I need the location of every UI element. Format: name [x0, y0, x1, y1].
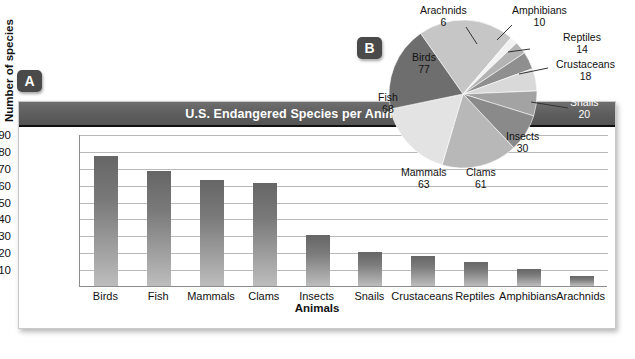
pie-label-insects-value: 30 [506, 143, 539, 155]
bar [464, 262, 488, 286]
pie-label-mammals-name: Mammals [401, 167, 447, 179]
bar [306, 235, 330, 286]
pie-label-mammals: Mammals 63 [401, 167, 447, 190]
y-axis-tick: 90 [0, 130, 11, 140]
pie-callout-snails: Snails 20 [570, 96, 599, 120]
pie-callout-crustaceans-name: Crustaceans [556, 58, 615, 70]
x-axis-tick: Arachnids [541, 290, 621, 302]
pie-label-birds-value: 77 [412, 64, 436, 76]
y-axis-tick: 60 [0, 181, 11, 191]
pie-callout-amphibians-name: Amphibians [512, 4, 567, 16]
y-axis-tick: 40 [0, 214, 11, 224]
bar [147, 171, 171, 286]
pie-callout-amphibians: Amphibians 10 [512, 4, 567, 28]
y-axis-tick: 50 [0, 198, 11, 208]
pie-label-clams: Clams 61 [466, 167, 496, 190]
pie-label-birds: Birds 77 [412, 52, 436, 75]
pie-callout-reptiles-name: Reptiles [563, 31, 601, 43]
pie-callout-crustaceans: Crustaceans 18 [556, 58, 615, 82]
pie-callout-amphibians-value: 10 [534, 16, 546, 28]
pie-label-insects-name: Insects [506, 131, 539, 143]
pie-label-fish-name: Fish [378, 92, 398, 104]
pie-callout-reptiles-value: 14 [576, 43, 588, 55]
pie-label-fish: Fish 68 [378, 92, 398, 115]
bar [253, 183, 277, 286]
y-axis-tick: 70 [0, 164, 11, 174]
pie-callout-snails-value: 20 [578, 108, 590, 120]
pie-callout-arachnids-name: Arachnids [420, 4, 467, 16]
bar [94, 156, 118, 286]
pie-callout-arachnids: Arachnids 6 [420, 4, 467, 28]
pie-callout-arachnids-value: 6 [440, 16, 446, 28]
bar [517, 269, 541, 286]
y-axis-tick: 80 [0, 147, 11, 157]
pie-label-clams-name: Clams [466, 167, 496, 179]
x-axis-title: Animals [19, 302, 615, 314]
pie-label-mammals-value: 63 [401, 179, 447, 191]
y-axis-title: Number of species [3, 19, 15, 122]
y-axis-tick: 30 [0, 231, 11, 241]
pie-label-insects: Insects 30 [506, 131, 539, 154]
figure-root: U.S. Endangered Species per Animal Group… [0, 0, 635, 359]
gridline [80, 169, 608, 170]
pie-label-clams-value: 61 [466, 179, 496, 191]
bar [358, 252, 382, 286]
bar [200, 180, 224, 286]
pie-label-fish-value: 68 [378, 104, 398, 116]
y-axis-tick: 20 [0, 248, 11, 258]
bar [411, 256, 435, 286]
y-axis-tick: 10 [0, 265, 11, 275]
panel-badge-a: A [17, 70, 42, 92]
pie-callout-reptiles: Reptiles 14 [563, 31, 601, 55]
panel-badge-b: B [357, 37, 382, 59]
bar [570, 276, 594, 286]
pie-callout-snails-name: Snails [570, 96, 599, 108]
pie-callout-crustaceans-value: 18 [580, 70, 592, 82]
pie-label-birds-name: Birds [412, 52, 436, 64]
